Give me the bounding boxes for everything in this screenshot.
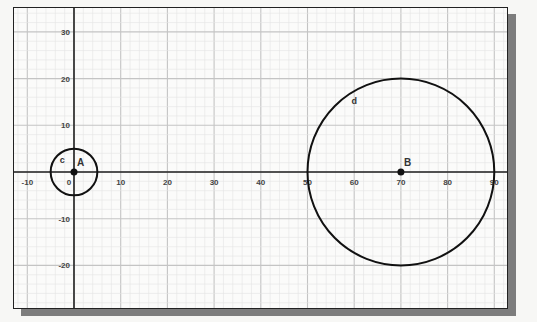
x-tick-label: 10 xyxy=(116,178,125,187)
y-tick-label: 10 xyxy=(61,121,70,130)
y-tick-label: -20 xyxy=(58,261,70,270)
circle-label-d: d xyxy=(351,96,357,106)
point-A[interactable] xyxy=(71,169,78,176)
x-tick-label: -10 xyxy=(22,178,34,187)
x-tick-label: 20 xyxy=(163,178,172,187)
y-tick-label: 20 xyxy=(61,75,70,84)
y-tick-label: -10 xyxy=(58,215,70,224)
x-tick-label: 40 xyxy=(256,178,265,187)
point-B[interactable] xyxy=(397,169,404,176)
x-tick-label: 80 xyxy=(443,178,452,187)
x-tick-label: 60 xyxy=(350,178,359,187)
graphics-view[interactable]: -100102030405060708090302010-10-20 cdAB xyxy=(13,7,508,309)
grid xyxy=(14,8,508,309)
circle-label-c: c xyxy=(60,155,65,165)
coordinate-plane[interactable]: -100102030405060708090302010-10-20 cdAB xyxy=(14,8,508,309)
x-tick-label: 70 xyxy=(396,178,405,187)
x-tick-label: 0 xyxy=(67,178,72,187)
point-label-A: A xyxy=(77,157,84,168)
y-tick-label: 30 xyxy=(61,28,70,37)
point-label-B: B xyxy=(404,157,411,168)
x-tick-label: 30 xyxy=(210,178,219,187)
